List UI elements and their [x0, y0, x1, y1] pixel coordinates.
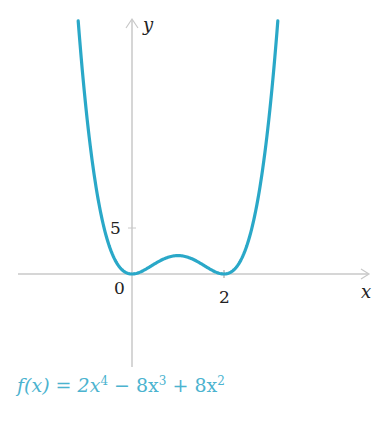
function-plot [0, 0, 391, 421]
x-tick-label-2: 2 [219, 289, 230, 306]
formula-exp-3: 2 [217, 374, 225, 388]
function-formula: f(x) = 2x4 − 8x3 + 8x2 [17, 374, 225, 396]
y-tick-label-5: 5 [110, 220, 121, 237]
formula-mid-1: − 8x [108, 374, 159, 396]
origin-label: 0 [114, 280, 125, 297]
formula-exp-1: 4 [100, 374, 108, 388]
formula-prefix: f(x) = 2x [17, 374, 100, 396]
y-axis-label: y [143, 16, 153, 34]
formula-mid-2: + 8x [166, 374, 217, 396]
function-curve [78, 21, 278, 274]
x-axis-label: x [361, 283, 371, 301]
